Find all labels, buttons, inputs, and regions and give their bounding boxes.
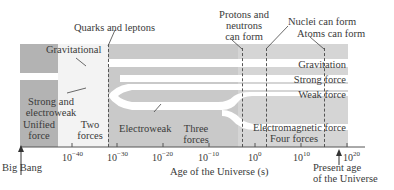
protons-neutrons-label: Protons and neutrons can form xyxy=(206,9,282,42)
electroweak-label: Electroweak xyxy=(119,123,171,134)
axis-label: Age of the Universe (s) xyxy=(170,166,269,177)
three-forces-label: Three forces xyxy=(176,123,216,145)
weak-force-label: Weak force xyxy=(250,89,346,100)
tick-1e-40: 10−40 xyxy=(62,150,83,163)
big-bang-label: Big Bang xyxy=(2,162,42,173)
present-age-label: Present age of the Universe xyxy=(313,162,378,184)
quarks-leptons-label: Quarks and leptons xyxy=(74,22,155,33)
nuclei-label: Nuclei can form xyxy=(288,16,356,27)
two-forces-label: Two forces xyxy=(70,119,110,141)
strong-force-label: Strong force xyxy=(250,74,346,85)
tick-1e-10: 10−10 xyxy=(198,150,219,163)
tick-1e10: 1010 xyxy=(293,150,310,163)
tick-1e-30: 10−30 xyxy=(107,150,128,163)
tick-1e0: 100 xyxy=(248,150,262,163)
gravitation-label: Gravitation xyxy=(250,59,346,70)
atoms-label: Atoms can form xyxy=(297,28,365,39)
unified-force-label: Unified force xyxy=(18,119,60,141)
gravitational-label: Gravitational xyxy=(46,44,101,55)
tick-1e-20: 10−20 xyxy=(152,150,173,163)
four-forces-label: Four forces xyxy=(270,133,318,144)
electromagnetic-force-label: Electromagnetic force xyxy=(230,122,346,133)
strong-electroweak-label: Strong and electroweak xyxy=(16,96,86,118)
